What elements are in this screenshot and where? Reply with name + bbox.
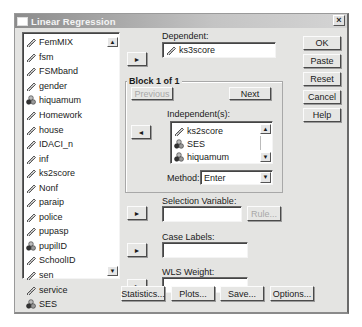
list-item[interactable]: Nonf: [26, 180, 119, 195]
block-label: Block 1 of 1: [127, 76, 182, 86]
scale-icon: [26, 66, 36, 76]
variable-list-scroll-up[interactable]: ▲: [107, 37, 118, 47]
selection-variable-label: Selection Variable:: [162, 196, 236, 206]
independents-list[interactable]: ks2scoreSEShiquamum ▲ ▼: [170, 121, 273, 164]
nominal-icon: [26, 241, 36, 251]
variable-list-scroll-down[interactable]: ▼: [107, 266, 118, 276]
list-item-label: gender: [39, 81, 67, 91]
list-item-label: SchoolID: [39, 255, 76, 265]
save-button[interactable]: Save...: [220, 286, 264, 301]
variable-list[interactable]: FemMIXfsmFSMbandgenderhiquamumHomeworkho…: [22, 32, 120, 279]
method-select[interactable]: Enter ▼: [200, 170, 273, 185]
list-item-label: police: [39, 212, 63, 222]
scale-icon: [26, 255, 36, 265]
previous-button[interactable]: Previous: [131, 87, 173, 100]
list-item-label: hiquamum: [39, 95, 81, 105]
list-item[interactable]: service: [26, 282, 119, 297]
plots-button[interactable]: Plots...: [171, 286, 215, 301]
independents-scroll-track[interactable]: [260, 136, 271, 150]
list-item[interactable]: house: [26, 122, 119, 137]
list-item[interactable]: ks2score: [174, 124, 272, 137]
list-item[interactable]: police: [26, 210, 119, 225]
list-item-label: IDACI_n: [39, 139, 73, 149]
method-label: Method:: [167, 173, 200, 183]
close-button[interactable]: ×: [333, 15, 345, 26]
scale-icon: [26, 270, 36, 280]
list-item[interactable]: SES: [174, 137, 272, 150]
list-item-label: SES: [39, 299, 57, 309]
scale-icon: [26, 197, 36, 207]
list-item[interactable]: sen: [26, 268, 119, 283]
method-value: Enter: [204, 173, 226, 183]
independents-scroll-down[interactable]: ▼: [260, 152, 271, 162]
list-item[interactable]: SES: [26, 297, 119, 312]
list-item[interactable]: SchoolID: [26, 253, 119, 268]
nominal-icon: [26, 299, 36, 309]
nominal-icon: [174, 139, 184, 149]
list-item-label: paraip: [39, 197, 64, 207]
list-item[interactable]: IDACI_n: [26, 137, 119, 152]
independents-label: Independent(s):: [167, 109, 230, 119]
dependent-label: Dependent:: [162, 31, 209, 41]
chevron-down-icon[interactable]: ▼: [260, 172, 271, 183]
case-labels-label: Case Labels:: [162, 232, 215, 242]
cancel-button[interactable]: Cancel: [303, 90, 341, 104]
independents-scroll-up[interactable]: ▲: [260, 124, 271, 134]
options-button[interactable]: Options...: [270, 286, 314, 301]
list-item[interactable]: pupilID: [26, 239, 119, 254]
dependent-field[interactable]: ks3score: [162, 42, 276, 58]
list-item[interactable]: hiquamum: [174, 150, 272, 163]
list-item[interactable]: pupasp: [26, 224, 119, 239]
list-item[interactable]: ks2score: [26, 166, 119, 181]
list-item-label: Nonf: [39, 183, 58, 193]
scale-icon: [174, 126, 184, 136]
scale-icon: [26, 212, 36, 222]
list-item-label: sen: [39, 270, 54, 280]
list-item[interactable]: paraip: [26, 195, 119, 210]
statistics-button[interactable]: Statistics...: [121, 286, 165, 301]
list-item-label: inf: [39, 154, 49, 164]
rule-button[interactable]: Rule...: [247, 206, 281, 221]
nominal-icon: [26, 95, 36, 105]
reset-button[interactable]: Reset: [303, 72, 341, 86]
independents-list-items: ks2scoreSEShiquamum: [171, 122, 272, 163]
list-item-label: service: [39, 285, 68, 295]
list-item[interactable]: FemMIX: [26, 35, 119, 50]
paste-button[interactable]: Paste: [303, 54, 341, 68]
next-button[interactable]: Next: [229, 87, 271, 100]
help-button[interactable]: Help: [303, 108, 341, 122]
list-item-label: SES: [187, 139, 205, 149]
case-labels-field[interactable]: [162, 242, 248, 258]
scale-icon: [26, 183, 36, 193]
dependent-move-button[interactable]: ►: [127, 52, 147, 66]
scale-icon: [26, 37, 36, 47]
selection-variable-move-button[interactable]: ►: [127, 206, 147, 220]
list-item[interactable]: gender: [26, 79, 119, 94]
scale-icon: [26, 125, 36, 135]
list-item-label: FSMband: [39, 66, 78, 76]
window-title: Linear Regression: [31, 16, 116, 27]
wls-weight-label: WLS Weight:: [162, 267, 214, 277]
list-item[interactable]: FSMband: [26, 64, 119, 79]
list-item[interactable]: fsm: [26, 50, 119, 65]
list-item-label: ks2score: [39, 168, 75, 178]
scale-icon: [26, 154, 36, 164]
list-item-label: FemMIX: [39, 37, 73, 47]
scale-icon: [26, 139, 36, 149]
scale-icon: [26, 81, 36, 91]
case-labels-move-button[interactable]: ►: [127, 243, 147, 257]
list-item-label: house: [39, 125, 64, 135]
scale-icon: [26, 110, 36, 120]
selection-variable-field[interactable]: [162, 206, 242, 222]
scale-icon: [26, 226, 36, 236]
ok-button[interactable]: OK: [303, 36, 341, 50]
list-item[interactable]: hiquamum: [26, 93, 119, 108]
scale-icon: [26, 285, 36, 295]
variable-list-items: FemMIXfsmFSMbandgenderhiquamumHomeworkho…: [23, 33, 119, 311]
list-item[interactable]: inf: [26, 151, 119, 166]
window-icon: [17, 17, 28, 26]
title-bar[interactable]: Linear Regression ×: [15, 14, 347, 28]
independents-move-button[interactable]: ◄: [131, 125, 151, 139]
linear-regression-dialog: Linear Regression × FemMIXfsmFSMbandgend…: [14, 13, 349, 314]
list-item[interactable]: Homework: [26, 108, 119, 123]
